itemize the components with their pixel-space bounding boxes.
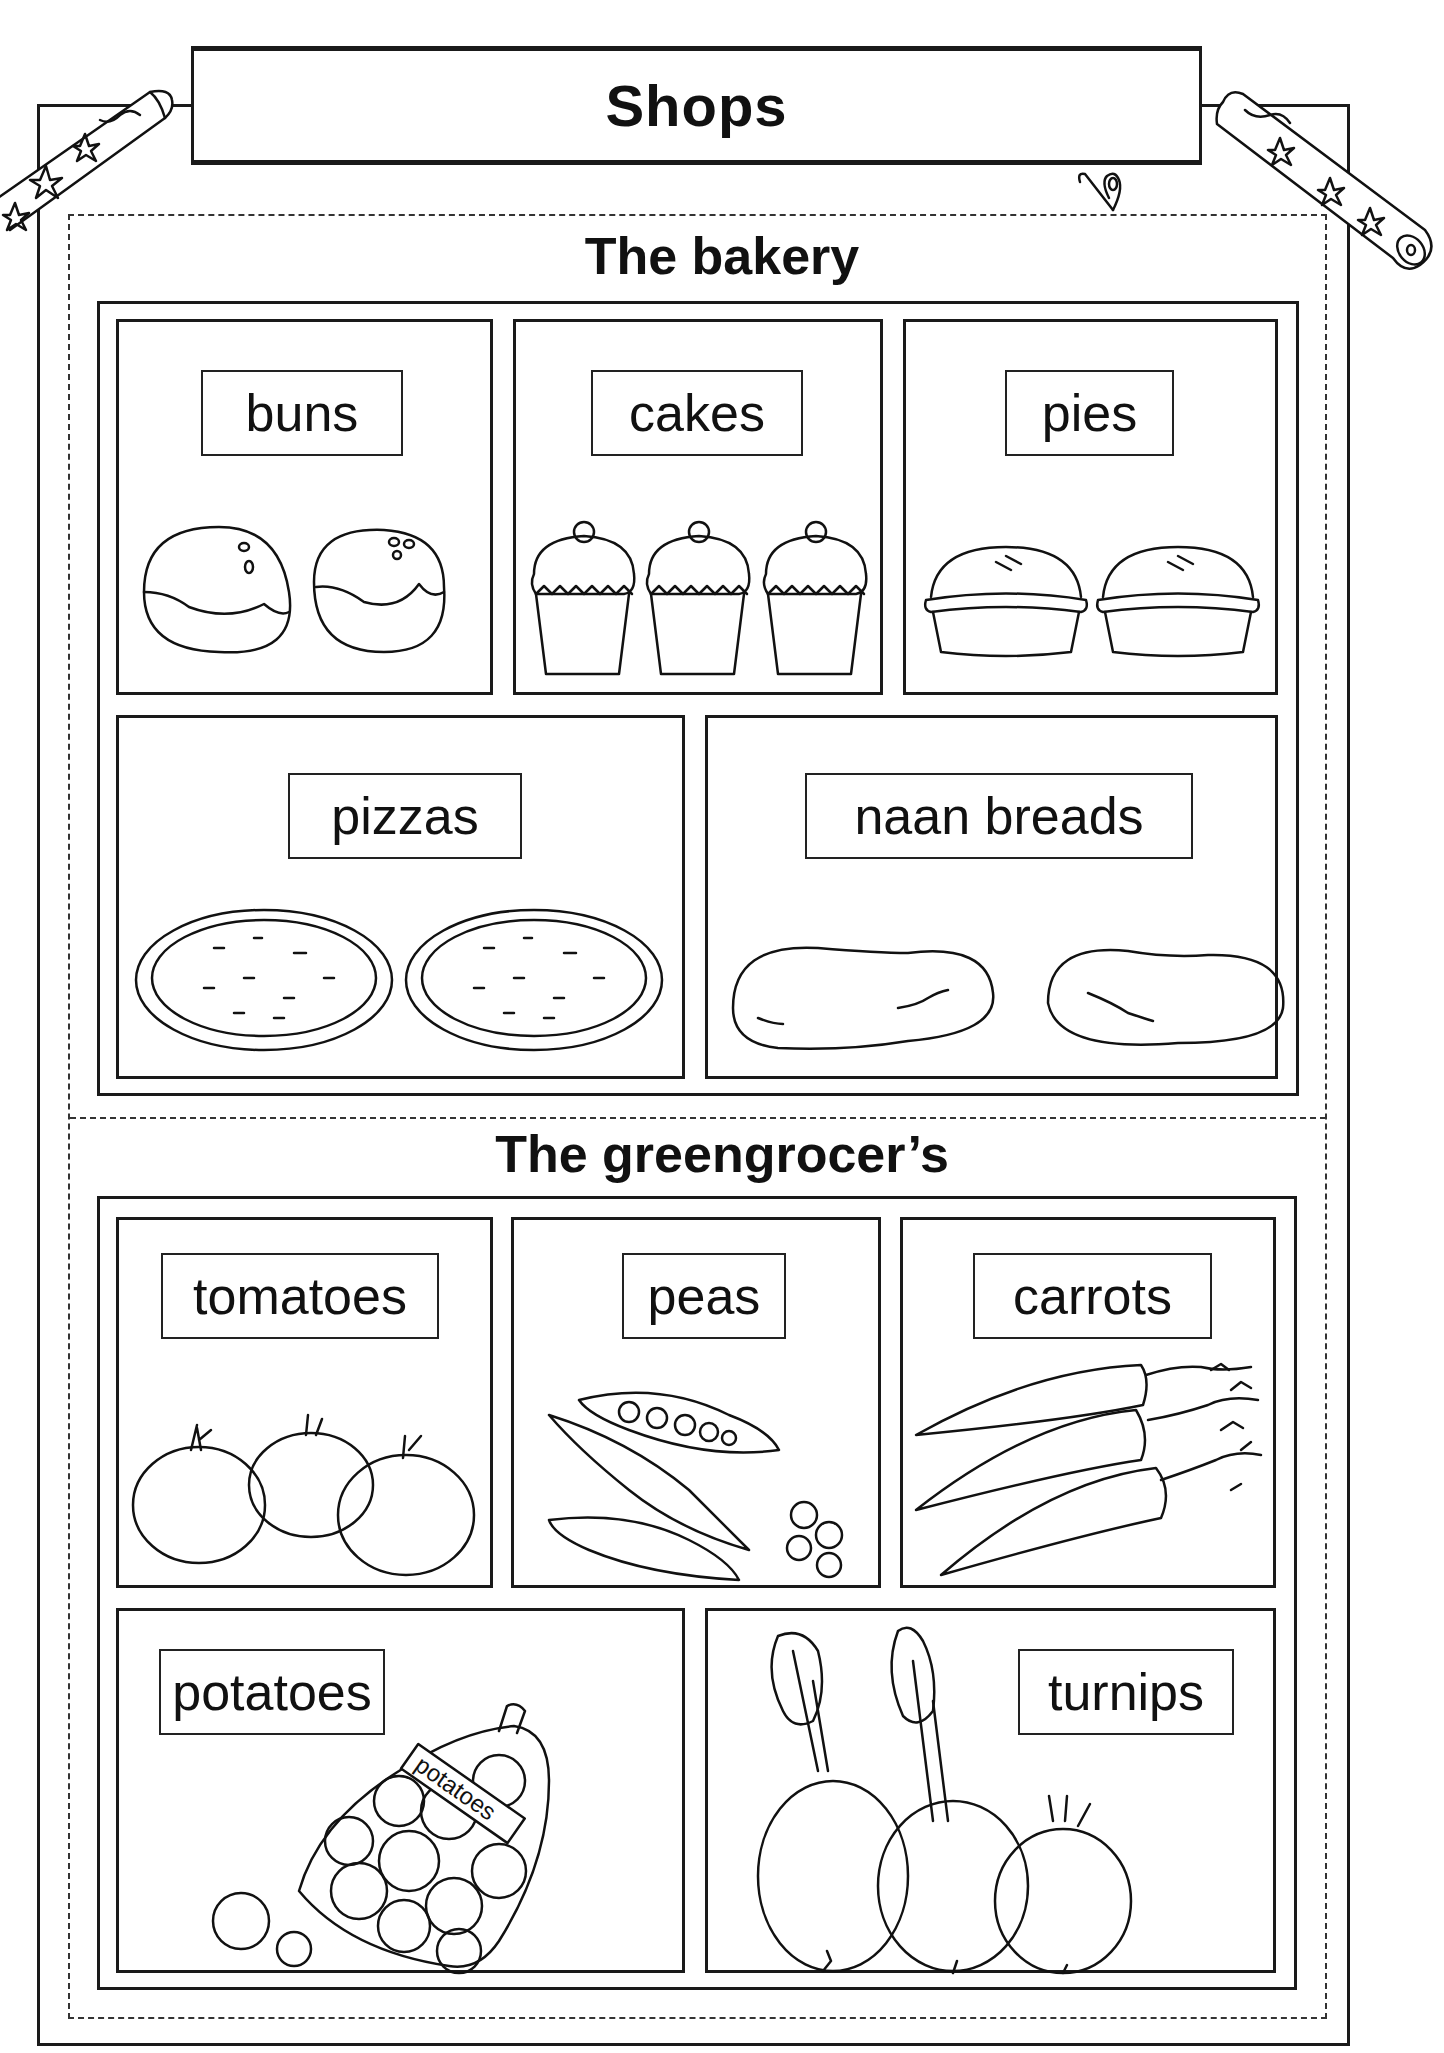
panel-tomatoes: tomatoes (116, 1217, 493, 1588)
word-card-tomatoes: tomatoes (161, 1253, 439, 1339)
word-card-naan-breads: naan breads (805, 773, 1193, 859)
panel-naan-breads: naan breads (705, 715, 1278, 1079)
word-card-buns: buns (201, 370, 403, 456)
word-card-pizzas: pizzas (288, 773, 522, 859)
panel-pies: pies (903, 319, 1278, 695)
potatoes-picture: potatoes (199, 1701, 679, 1976)
title-banner: Shops (191, 46, 1202, 165)
tomatoes-picture (131, 1410, 481, 1580)
word-card-cakes: cakes (591, 370, 803, 456)
peas-picture (529, 1370, 874, 1585)
page-title: Shops (605, 72, 787, 139)
panel-peas: peas (511, 1217, 881, 1588)
pizzas-picture (134, 908, 674, 1058)
panel-buns: buns (116, 319, 493, 695)
turnips-picture (733, 1621, 1183, 1971)
bag-tag-text: potatoes (410, 1751, 501, 1826)
panel-pizzas: pizzas (116, 715, 685, 1079)
panel-turnips: turnips (705, 1608, 1276, 1973)
paperclip-icon (1075, 170, 1155, 220)
word-card-carrots: carrots (973, 1253, 1212, 1339)
naan-breads-picture (728, 933, 1268, 1053)
section-divider (70, 1117, 1326, 1119)
carrots-picture (911, 1360, 1273, 1585)
panel-potatoes: potatoes potatoes (116, 1608, 685, 1973)
section-heading-greengrocer: The greengrocer’s (0, 1124, 1444, 1184)
panel-cakes: cakes (513, 319, 883, 695)
word-card-pies: pies (1005, 370, 1174, 456)
buns-picture (139, 522, 479, 662)
section-heading-bakery: The bakery (0, 226, 1444, 286)
word-card-peas: peas (622, 1253, 786, 1339)
cakes-picture (524, 514, 879, 684)
pencil-left-icon (0, 80, 200, 240)
panel-carrots: carrots (900, 1217, 1276, 1588)
pies-picture (921, 542, 1271, 662)
